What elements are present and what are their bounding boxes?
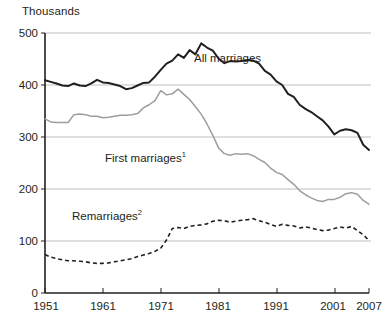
series-line-all-marriages [45,43,369,150]
series-line-first-marriages [45,89,369,204]
gridlines [45,33,371,241]
axis-ticks [41,33,369,293]
marriages-line-chart: Thousands 500 400 300 200 100 0 1951 196… [0,0,386,332]
plot-area [0,0,386,332]
